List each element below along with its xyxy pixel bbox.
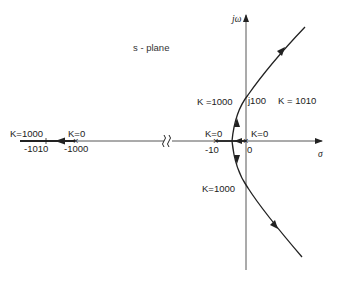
- value-label-origin: 0: [247, 144, 252, 155]
- imag-axis-label: jω: [230, 14, 242, 24]
- gain-label-far-left: K=1000: [10, 128, 43, 139]
- gain-label-lower-crossing: K=1000: [202, 183, 235, 194]
- gain-label-upper-crossing-right: K = 1010: [278, 95, 316, 106]
- root-locus-diagram: × × × s - plane jω σ K=0 0 K=0 -10 K=0 -…: [0, 0, 338, 281]
- complex-branch-lower: [232, 141, 302, 257]
- gain-label-origin: K=0: [251, 128, 268, 139]
- real-axis-label: σ: [318, 149, 323, 159]
- value-label-minus10: -10: [205, 144, 219, 155]
- arrow-upper-2-icon: [277, 47, 285, 56]
- arrow-lower-2-icon: [270, 220, 278, 229]
- gain-label-minus1000: K=0: [68, 128, 85, 139]
- arrow-from-origin-icon: [234, 138, 242, 144]
- value-label-minus1000: -1000: [64, 143, 88, 154]
- gain-label-upper-crossing-left: K =1000: [197, 96, 233, 107]
- axis-break-icon: [163, 135, 171, 147]
- plane-label: s - plane: [133, 42, 169, 53]
- value-label-far-left: -1010: [24, 143, 48, 154]
- gain-label-minus10: K=0: [205, 128, 222, 139]
- complex-branch-upper: [232, 27, 305, 141]
- value-label-upper-crossing: j100: [247, 95, 266, 106]
